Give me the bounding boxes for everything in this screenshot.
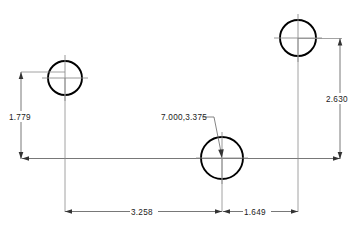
- extension-lines: [21, 38, 342, 212]
- dimension-label-vertical-right: 2.630: [326, 95, 348, 104]
- dimension-horizontal-chain: 3.258 1.649: [65, 206, 298, 217]
- dimension-horizontal-right: 1.649: [223, 206, 298, 217]
- baseline-datum-line: [22, 156, 340, 161]
- coordinate-callout: 7.000,3.375: [161, 113, 224, 158]
- dimension-label-horizontal-right: 1.649: [244, 208, 266, 217]
- coordinate-label: 7.000,3.375: [161, 113, 207, 122]
- dimension-label-vertical-left: 1.779: [9, 113, 31, 122]
- dimension-horizontal-left: 3.258: [65, 206, 222, 217]
- drawing-viewport: 1.779 2.630 3.258: [0, 0, 353, 237]
- dimension-vertical-right: 2.630: [325, 39, 353, 160]
- dimension-vertical-left: 1.779: [8, 72, 35, 159]
- cad-drawing-canvas: 1.779 2.630 3.258: [0, 0, 353, 237]
- dimension-label-horizontal-left: 3.258: [131, 208, 153, 217]
